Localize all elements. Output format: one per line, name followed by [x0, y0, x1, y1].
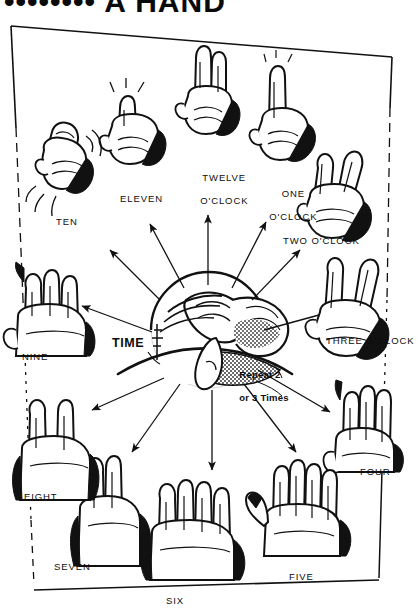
- label-time: TIME: [112, 338, 144, 349]
- label-eight: EIGHT: [24, 491, 58, 502]
- label-three-oclock: THREE O'CLOCK: [326, 335, 414, 346]
- repeat-note-line1: Repeat 2: [239, 369, 280, 380]
- diagram-page: •••••••• A HAND: [0, 0, 417, 613]
- arrow-nine: [82, 306, 152, 332]
- hand-twelve-oclock: [175, 46, 240, 136]
- label-seven: SEVEN: [54, 561, 91, 572]
- arrow-two: [252, 250, 300, 300]
- hand-nine: [4, 262, 95, 356]
- arrow-ten: [110, 250, 160, 300]
- label-two-oclock: TWO O'CLOCK: [283, 235, 360, 246]
- arrow-seven: [132, 384, 180, 452]
- label-four: FOUR: [360, 466, 391, 477]
- label-eleven: ELEVEN: [120, 193, 163, 204]
- label-nine: NINE: [22, 351, 48, 362]
- label-twelve-line1: TWELVE: [202, 172, 246, 183]
- label-twelve-oclock: TWELVE O'CLOCK: [186, 160, 248, 218]
- hand-five: [246, 460, 351, 556]
- label-five: FIVE: [289, 571, 314, 582]
- hand-one-oclock: [249, 50, 315, 162]
- label-one-line1: ONE: [282, 188, 305, 199]
- hand-ten: [26, 122, 101, 216]
- label-ten: TEN: [56, 216, 78, 227]
- hand-four: [323, 380, 403, 473]
- diagram-artwork: [0, 0, 417, 613]
- label-one-line2: O'CLOCK: [269, 211, 317, 222]
- hand-eight: [13, 400, 99, 500]
- label-one-oclock: ONE O'CLOCK: [255, 176, 317, 234]
- hand-eleven: [99, 78, 166, 166]
- repeat-note-line2: or 3 Times: [239, 392, 288, 403]
- hand-six: [141, 480, 245, 580]
- label-twelve-line2: O'CLOCK: [200, 195, 248, 206]
- label-repeat-note: Repeat 2 or 3 Times: [228, 357, 289, 415]
- label-six: SIX: [166, 595, 184, 606]
- arrow-eleven: [150, 224, 184, 288]
